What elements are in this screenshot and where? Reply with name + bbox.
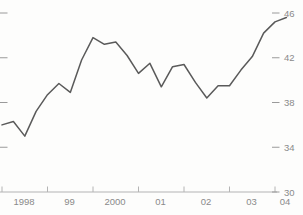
y-tick-label: 34	[284, 142, 295, 153]
y-tick-label: 42	[284, 52, 295, 63]
x-tick-label: 1998	[13, 196, 34, 207]
x-tick-label: 02	[201, 196, 212, 207]
x-tick-label: 01	[155, 196, 166, 207]
y-tick-label: 46	[284, 8, 295, 19]
line-chart: 1998992000010203043034384246	[0, 0, 303, 215]
chart-figure: 1998992000010203043034384246	[0, 0, 303, 215]
data-line-series	[2, 18, 286, 137]
y-tick-label: 30	[284, 187, 295, 198]
x-tick-label: 2000	[104, 196, 125, 207]
x-tick-label: 99	[64, 196, 75, 207]
x-tick-label: 03	[246, 196, 257, 207]
y-tick-label: 38	[284, 97, 295, 108]
